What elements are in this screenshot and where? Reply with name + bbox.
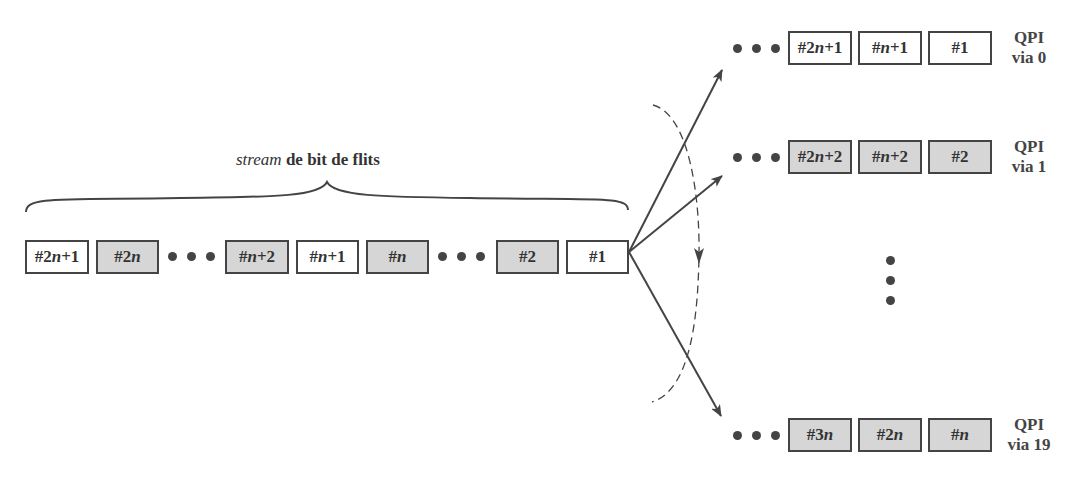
- lane-flit: #n+1: [858, 31, 922, 65]
- lane-label-line1: QPI: [1004, 28, 1054, 48]
- lane-label-line1: QPI: [1004, 137, 1054, 157]
- lane-label-line2: via 19: [1000, 435, 1058, 455]
- stream-flit: #2n+1: [25, 240, 89, 274]
- lane-flit: #n+2: [858, 140, 922, 174]
- stream-flit: #n: [366, 240, 429, 274]
- lane-label-line2: via 1: [1004, 157, 1054, 177]
- arrow-to-lane-1: [629, 176, 722, 252]
- stream-title: stream de bit de flits: [236, 150, 380, 170]
- qpi-lane-distribution-diagram: stream de bit de flits #2n+1 #2n #n+2 #n…: [0, 0, 1074, 481]
- lane-label: QPI via 0: [1004, 28, 1054, 68]
- arrow-to-lane-19: [629, 252, 721, 416]
- lane-flit: #2: [928, 140, 992, 174]
- stream-flit: #2: [496, 240, 559, 274]
- stream-flit: #1: [566, 240, 629, 274]
- lane-flit: #3n: [788, 418, 852, 452]
- stream-flit: #2n: [96, 240, 159, 274]
- stream-flit: #n+1: [296, 240, 359, 274]
- title-rest: de bit de flits: [282, 150, 380, 169]
- title-italic: stream: [236, 150, 282, 169]
- lane-flit: #n: [928, 418, 992, 452]
- lane-flit: #2n+2: [788, 140, 852, 174]
- lane-flit: #2n+1: [788, 31, 852, 65]
- lane-label: QPI via 1: [1004, 137, 1054, 177]
- lane-label-line1: QPI: [1000, 415, 1058, 435]
- round-robin-dashed-curve: [652, 105, 699, 402]
- lane-label: QPI via 19: [1000, 415, 1058, 455]
- arrow-to-lane-0: [629, 70, 722, 252]
- stream-flit: #n+2: [225, 240, 289, 274]
- lane-flit: #2n: [858, 418, 922, 452]
- lane-label-line2: via 0: [1004, 48, 1054, 68]
- lane-flit: #1: [928, 31, 992, 65]
- brace: [26, 182, 628, 212]
